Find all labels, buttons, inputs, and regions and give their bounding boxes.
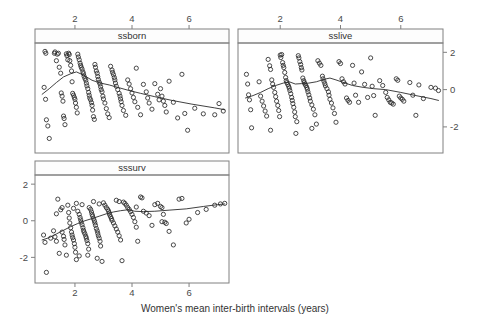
data-point <box>54 239 58 243</box>
data-point <box>363 82 367 86</box>
data-point <box>314 122 318 126</box>
data-point <box>124 113 128 117</box>
data-point <box>134 205 138 209</box>
data-point <box>294 131 298 135</box>
data-point <box>429 85 433 89</box>
data-point <box>57 251 61 255</box>
data-point <box>61 99 65 103</box>
data-point <box>77 254 81 258</box>
data-point <box>223 201 227 205</box>
data-point <box>146 96 150 100</box>
data-point <box>156 92 160 96</box>
x-axis-title: Women's mean inter-birth intervals (year… <box>141 303 329 314</box>
data-point <box>184 221 188 225</box>
data-point <box>246 82 250 86</box>
data-point <box>57 65 61 69</box>
panel-frame-ssborn <box>35 43 229 153</box>
y-tick-label: 0 <box>450 84 455 95</box>
data-point <box>247 98 251 102</box>
data-point <box>91 108 95 112</box>
data-point <box>69 69 73 73</box>
data-point <box>117 91 121 95</box>
data-point <box>177 197 181 201</box>
data-point <box>54 212 58 216</box>
data-point <box>104 107 108 111</box>
data-point <box>295 120 299 124</box>
data-point <box>136 239 140 243</box>
data-point <box>273 90 277 94</box>
data-point <box>270 78 274 82</box>
data-point <box>153 82 157 86</box>
data-point <box>47 136 51 140</box>
data-point <box>158 87 162 91</box>
panel-ssborn: ssborn246 <box>35 13 229 153</box>
data-point <box>329 101 333 105</box>
data-point <box>63 243 67 247</box>
data-point <box>101 97 105 101</box>
data-point <box>180 72 184 76</box>
panel-sssurv: sssurv246-202 <box>20 161 229 298</box>
data-point <box>87 247 91 251</box>
data-point <box>126 78 130 82</box>
data-point <box>42 85 46 89</box>
y-tick-label: -2 <box>20 252 28 263</box>
data-point <box>244 72 248 76</box>
x-tick-label: 4 <box>338 13 343 24</box>
data-point <box>96 77 100 81</box>
data-point <box>85 84 89 88</box>
data-point <box>74 201 78 205</box>
x-tick-label: 2 <box>278 13 283 24</box>
data-point <box>217 101 221 105</box>
x-tick-label: 6 <box>398 13 403 24</box>
x-tick-label: 2 <box>72 13 77 24</box>
data-point <box>80 203 84 207</box>
data-point <box>310 126 314 130</box>
data-point <box>67 216 71 220</box>
data-point <box>117 234 121 238</box>
data-point <box>249 126 253 130</box>
data-point <box>74 105 78 109</box>
data-point <box>63 123 67 127</box>
data-point <box>274 99 278 103</box>
data-point <box>127 82 131 86</box>
data-point <box>313 113 317 117</box>
data-point <box>161 99 165 103</box>
data-point <box>408 80 412 84</box>
data-point <box>134 66 138 70</box>
data-point <box>73 250 77 254</box>
data-point <box>257 80 261 84</box>
y-tick-label: -2 <box>450 121 458 132</box>
data-point <box>283 70 287 74</box>
data-point <box>276 103 280 107</box>
x-tick-label: 6 <box>186 13 191 24</box>
data-point <box>373 113 377 117</box>
data-point <box>310 103 314 107</box>
data-point <box>378 79 382 83</box>
data-point <box>372 93 376 97</box>
data-point <box>97 202 101 206</box>
data-point <box>147 101 151 105</box>
data-point <box>204 207 208 211</box>
data-point <box>86 253 90 257</box>
data-point <box>64 253 68 257</box>
data-point <box>356 100 360 104</box>
data-point <box>186 128 190 132</box>
data-point <box>259 94 263 98</box>
data-point <box>95 256 99 260</box>
data-point <box>66 203 70 207</box>
data-point <box>67 210 71 214</box>
data-point <box>44 270 48 274</box>
trellis-figure: ssborn246sslive246-202sssurv246-202Women… <box>0 0 478 325</box>
smoother-line-ssborn <box>42 72 225 110</box>
data-point <box>150 223 154 227</box>
data-point <box>249 108 253 112</box>
data-point <box>134 225 138 229</box>
data-points-ssborn <box>42 49 225 140</box>
data-point <box>133 220 137 224</box>
data-point <box>274 95 278 99</box>
data-point <box>138 113 142 117</box>
data-point <box>150 107 154 111</box>
panel-frame-sssurv <box>35 175 229 283</box>
data-point <box>91 115 95 119</box>
data-point <box>99 244 103 248</box>
